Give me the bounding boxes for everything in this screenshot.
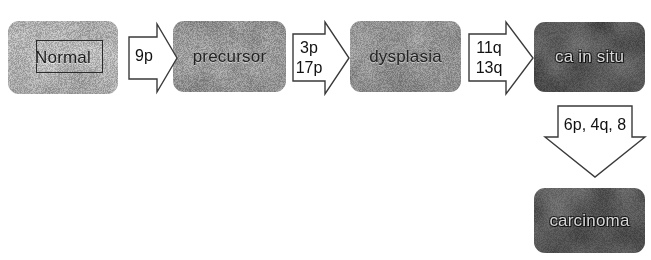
arrow-label-line: 13q [469, 58, 509, 78]
stage-box-normal: Normal [8, 21, 118, 94]
stage-label-carcinoma: carcinoma [549, 211, 629, 231]
arrow-normal-to-precursor: 9p [128, 23, 178, 93]
arrow-label-11q-13q: 11q 13q [469, 38, 509, 78]
stage-box-ca-in-situ: ca in situ [534, 22, 645, 92]
tumour-progression-diagram: Normal precursor dysplasia ca in situ ca… [0, 0, 651, 260]
arrow-ca-in-situ-to-carcinoma: 6p, 4q, 8 [544, 105, 646, 179]
stage-label-dysplasia: dysplasia [369, 47, 442, 67]
arrow-label-line: 6p, 4q, 8 [544, 116, 646, 134]
arrow-label-line: 3p [291, 38, 327, 58]
arrow-label-6p-4q-8: 6p, 4q, 8 [544, 116, 646, 134]
arrow-dysplasia-to-ca-in-situ: 11q 13q [468, 21, 534, 95]
stage-label-precursor: precursor [193, 47, 267, 67]
stage-box-precursor: precursor [173, 21, 286, 92]
arrow-label-3p-17p: 3p 17p [291, 38, 327, 78]
arrow-label-line: 11q [469, 38, 509, 58]
arrow-label-line: 9p [128, 47, 160, 65]
arrow-precursor-to-dysplasia: 3p 17p [292, 21, 350, 95]
arrow-label-line: 17p [291, 58, 327, 78]
stage-box-carcinoma: carcinoma [534, 188, 645, 253]
stage-box-dysplasia: dysplasia [350, 21, 461, 92]
arrow-label-9p: 9p [128, 47, 160, 65]
stage-label-ca-in-situ: ca in situ [555, 47, 624, 67]
stage-label-normal: Normal [35, 48, 91, 68]
